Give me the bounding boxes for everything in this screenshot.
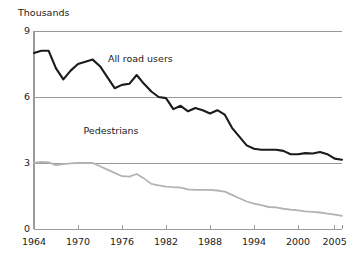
y-tick-label: 3 xyxy=(12,158,30,168)
chart-plot-area xyxy=(0,0,362,265)
series-label-all-road-users: All road users xyxy=(108,53,173,64)
y-tick-label: 0 xyxy=(12,224,30,234)
y-tick-label: 9 xyxy=(12,26,30,36)
series-line-all-road-users xyxy=(34,51,342,160)
x-tick-label: 1976 xyxy=(110,237,134,247)
x-axis-ticks xyxy=(34,225,342,229)
series-line-pedestrians xyxy=(34,162,342,216)
series-paths xyxy=(34,51,342,216)
x-tick-label: 2005 xyxy=(323,237,347,247)
x-tick-label: 1982 xyxy=(154,237,178,247)
x-tick-label: 2000 xyxy=(286,237,310,247)
x-tick-label: 1970 xyxy=(66,237,90,247)
line-chart: Thousands 0369 1964197019761982198819942… xyxy=(0,0,362,265)
axes xyxy=(34,31,342,229)
series-label-pedestrians: Pedestrians xyxy=(83,125,138,136)
y-tick-label: 6 xyxy=(12,92,30,102)
gridlines xyxy=(34,31,342,163)
x-tick-label: 1994 xyxy=(242,237,266,247)
x-tick-label: 1964 xyxy=(22,237,46,247)
x-tick-label: 1988 xyxy=(198,237,222,247)
